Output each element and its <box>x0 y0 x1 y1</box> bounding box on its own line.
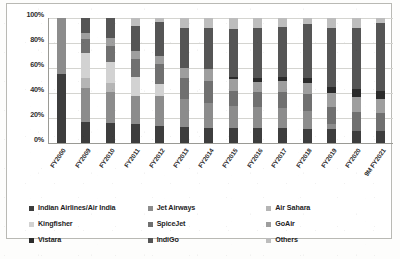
bar-segment[interactable] <box>253 82 262 92</box>
bar-segment[interactable] <box>57 18 66 74</box>
bar-segment[interactable] <box>229 29 238 77</box>
bar-segment[interactable] <box>303 94 312 110</box>
bar-segment[interactable] <box>131 77 140 96</box>
legend-item[interactable]: Others <box>266 232 385 248</box>
stacked-bar[interactable] <box>106 18 115 143</box>
stacked-bar[interactable] <box>57 18 66 143</box>
bar-segment[interactable] <box>81 88 90 122</box>
bar-segment[interactable] <box>229 106 238 129</box>
bar-segment[interactable] <box>327 107 336 125</box>
legend-item[interactable]: Kingfisher <box>29 216 148 232</box>
stacked-bar[interactable] <box>204 18 213 143</box>
bar-segment[interactable] <box>106 62 115 83</box>
bar-segment[interactable] <box>352 112 361 131</box>
legend-item[interactable]: SpiceJet <box>148 216 267 232</box>
bar-segment[interactable] <box>376 99 385 113</box>
bar-segment[interactable] <box>57 74 66 143</box>
legend-item[interactable]: Indian Airlines/Air India <box>29 200 148 216</box>
bar-segment[interactable] <box>131 18 140 26</box>
legend-item[interactable]: Air Sahara <box>266 200 385 216</box>
bar-segment[interactable] <box>229 91 238 106</box>
bar-segment[interactable] <box>376 91 385 100</box>
stacked-bar[interactable] <box>155 18 164 143</box>
bar-segment[interactable] <box>81 53 90 78</box>
bar-segment[interactable] <box>352 18 361 28</box>
stacked-bar[interactable] <box>229 18 238 143</box>
bar-segment[interactable] <box>131 124 140 143</box>
bar-segment[interactable] <box>180 99 189 127</box>
bar-segment[interactable] <box>106 92 115 123</box>
stacked-bar[interactable] <box>131 18 140 143</box>
stacked-bar[interactable] <box>303 18 312 143</box>
bar-segment[interactable] <box>204 103 213 128</box>
bar-segment[interactable] <box>155 22 164 56</box>
bar-segment[interactable] <box>303 83 312 94</box>
bar-segment[interactable] <box>131 96 140 125</box>
bar-segment[interactable] <box>229 79 238 90</box>
bar-segment[interactable] <box>204 81 213 104</box>
bar-segment[interactable] <box>155 96 164 126</box>
bar-segment[interactable] <box>131 26 140 51</box>
bar-segment[interactable] <box>180 68 189 78</box>
bar-segment[interactable] <box>180 78 189 99</box>
bar-segment[interactable] <box>131 59 140 77</box>
stacked-bar[interactable] <box>278 18 287 143</box>
bar-segment[interactable] <box>278 92 287 108</box>
bar-segment[interactable] <box>303 111 312 130</box>
bar-segment[interactable] <box>352 28 361 89</box>
bar-segment[interactable] <box>180 127 189 143</box>
bar-segment[interactable] <box>204 69 213 80</box>
bar-segment[interactable] <box>253 28 262 78</box>
bar-segment[interactable] <box>376 131 385 144</box>
bar-segment[interactable] <box>327 93 336 107</box>
bar-segment[interactable] <box>253 107 262 128</box>
bar-segment[interactable] <box>204 28 213 69</box>
bar-segment[interactable] <box>253 128 262 143</box>
bar-segment[interactable] <box>155 126 164 144</box>
bar-segment[interactable] <box>278 128 287 143</box>
stacked-bar[interactable] <box>327 18 336 143</box>
bar-segment[interactable] <box>278 27 287 77</box>
bar-segment[interactable] <box>106 18 115 38</box>
bar-segment[interactable] <box>303 129 312 143</box>
bar-segment[interactable] <box>229 18 238 29</box>
bar-segment[interactable] <box>106 83 115 92</box>
bar-segment[interactable] <box>278 81 287 92</box>
bar-segment[interactable] <box>81 122 90 143</box>
bar-segment[interactable] <box>327 18 336 28</box>
bar-segment[interactable] <box>155 56 164 65</box>
bar-segment[interactable] <box>155 64 164 84</box>
legend-item[interactable]: Jet Airways <box>148 200 267 216</box>
bar-segment[interactable] <box>81 78 90 88</box>
legend-item[interactable]: GoAir <box>266 216 385 232</box>
bar-segment[interactable] <box>180 18 189 28</box>
bar-segment[interactable] <box>303 24 312 78</box>
bar-segment[interactable] <box>81 39 90 53</box>
bar-segment[interactable] <box>253 18 262 28</box>
bar-segment[interactable] <box>253 92 262 107</box>
bar-segment[interactable] <box>106 123 115 143</box>
bar-segment[interactable] <box>131 51 140 60</box>
legend-item[interactable]: IndiGo <box>148 232 267 248</box>
bar-segment[interactable] <box>204 18 213 28</box>
bar-segment[interactable] <box>106 46 115 62</box>
bar-segment[interactable] <box>81 18 90 33</box>
bar-segment[interactable] <box>352 97 361 112</box>
bar-segment[interactable] <box>155 84 164 95</box>
stacked-bar[interactable] <box>352 18 361 143</box>
bar-segment[interactable] <box>352 131 361 144</box>
bar-segment[interactable] <box>327 129 336 143</box>
bar-segment[interactable] <box>204 128 213 143</box>
stacked-bar[interactable] <box>376 18 385 143</box>
bar-segment[interactable] <box>352 89 361 97</box>
bar-segment[interactable] <box>106 38 115 46</box>
stacked-bar[interactable] <box>180 18 189 143</box>
legend-item[interactable]: Vistara <box>29 232 148 248</box>
bar-segment[interactable] <box>376 113 385 131</box>
bar-segment[interactable] <box>376 23 385 91</box>
stacked-bar[interactable] <box>253 18 262 143</box>
bar-segment[interactable] <box>327 28 336 87</box>
bar-segment[interactable] <box>180 28 189 68</box>
bar-segment[interactable] <box>229 128 238 143</box>
bar-segment[interactable] <box>278 108 287 128</box>
